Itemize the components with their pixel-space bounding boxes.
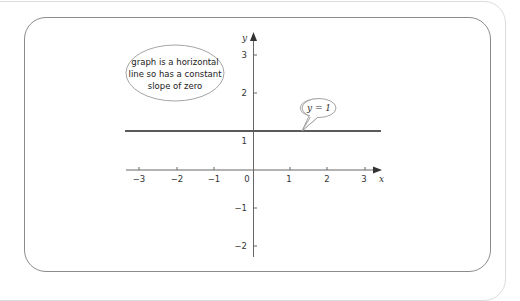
x-tick-label: 2: [324, 174, 329, 184]
note-bubble: graph is a horizontal line so has a cons…: [126, 45, 224, 101]
y-axis: 3 2 1 −1 −2 y: [234, 32, 257, 257]
y-tick-label: 3: [242, 50, 247, 60]
x-axis-label: x: [379, 174, 384, 184]
note-line: graph is a horizontal: [131, 57, 218, 67]
x-axis: −3 −2 −1 0 1 2 3 x: [126, 167, 384, 185]
y-tick-label: −1: [234, 203, 247, 213]
y-axis-label: y: [241, 33, 248, 43]
y-tick-label: 2: [242, 88, 247, 98]
x-tick-label: −1: [208, 174, 221, 184]
callout-label: y = 1: [306, 103, 331, 113]
x-tick-label: −2: [171, 174, 184, 184]
origin-label: 0: [244, 174, 249, 184]
y-tick-label: −2: [234, 241, 247, 251]
note-line: line so has a constant: [129, 69, 223, 79]
x-tick-label: −3: [133, 174, 146, 184]
x-tick-label: 3: [361, 174, 366, 184]
x-tick-label: 1: [286, 174, 291, 184]
line-callout: y = 1: [300, 99, 336, 132]
y-tick-label: 1: [242, 136, 247, 146]
note-line: slope of zero: [148, 81, 202, 91]
